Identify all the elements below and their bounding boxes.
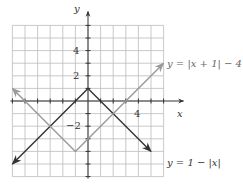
legend-gray-curve: y = |x + 1| − 4 (167, 58, 242, 69)
y-axis-label: y (74, 3, 80, 14)
axes (10, 11, 183, 178)
x-axis-label: x (177, 108, 183, 119)
y-tick-label-neg2: −2 (66, 120, 81, 131)
x-tick-label-4: 4 (134, 108, 140, 119)
legend-dark-curve: y = 1 − |x| (167, 157, 221, 168)
y-tick-label-2: 2 (73, 70, 79, 81)
y-tick-label-4: 4 (73, 45, 79, 56)
